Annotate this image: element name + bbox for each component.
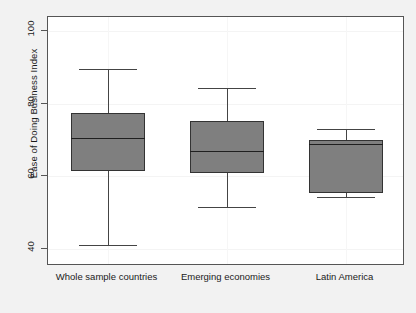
median-line [71,138,145,139]
median-line [309,144,383,145]
whisker-upper [346,129,347,140]
whisker-lower [227,173,228,207]
plot-area [48,17,403,264]
y-tick-label: 40 [25,239,36,255]
x-axis-label: Emerging economies [181,271,270,282]
y-gridline [48,31,403,32]
y-tick-label: 100 [25,21,36,37]
whisker-cap-lower [317,197,375,198]
y-gridline [48,104,403,105]
plot-frame [47,16,404,265]
whisker-cap-upper [79,69,137,70]
y-gridline [48,249,403,250]
whisker-lower [108,171,109,245]
box-iqr [71,113,145,171]
whisker-upper [108,69,109,113]
whisker-cap-upper [198,88,256,89]
y-tick-label: 60 [25,166,36,182]
y-tick-label: 80 [25,93,36,109]
whisker-cap-upper [317,129,375,130]
median-line [190,151,264,152]
box-iqr [190,121,264,173]
whisker-upper [227,88,228,121]
x-axis-label: Whole sample countries [56,271,157,282]
whisker-cap-lower [198,207,256,208]
x-axis-label: Latin America [316,271,374,282]
whisker-cap-lower [79,245,137,246]
boxplot-figure: Ease of Doing Business Index 406080100 W… [0,0,416,313]
box-iqr [309,140,383,193]
